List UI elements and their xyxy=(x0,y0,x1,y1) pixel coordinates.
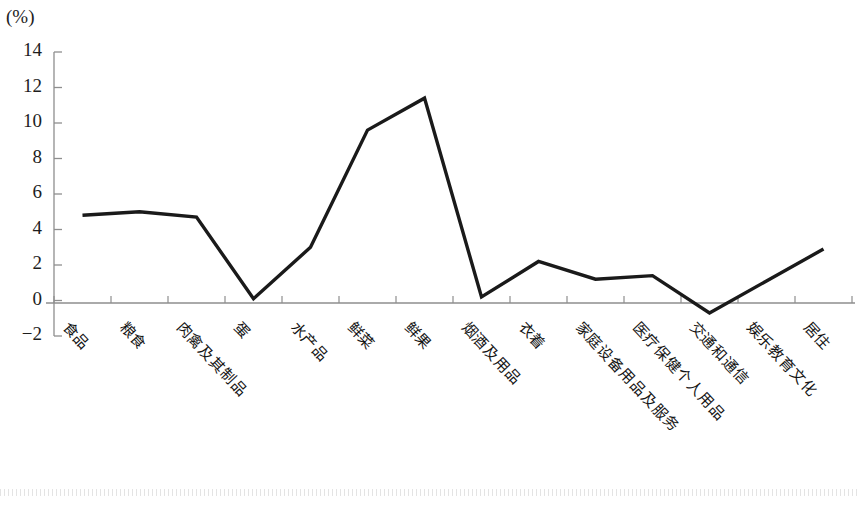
y-axis-tick-marks xyxy=(54,88,62,301)
chart-page: (%) 14121086420−2 食品粮食肉禽及其制品蛋水产品鲜菜鲜果烟酒及用… xyxy=(0,0,859,506)
data-series-line xyxy=(83,98,824,313)
line-chart-plot xyxy=(0,0,859,506)
scan-artifact-line xyxy=(0,489,859,496)
